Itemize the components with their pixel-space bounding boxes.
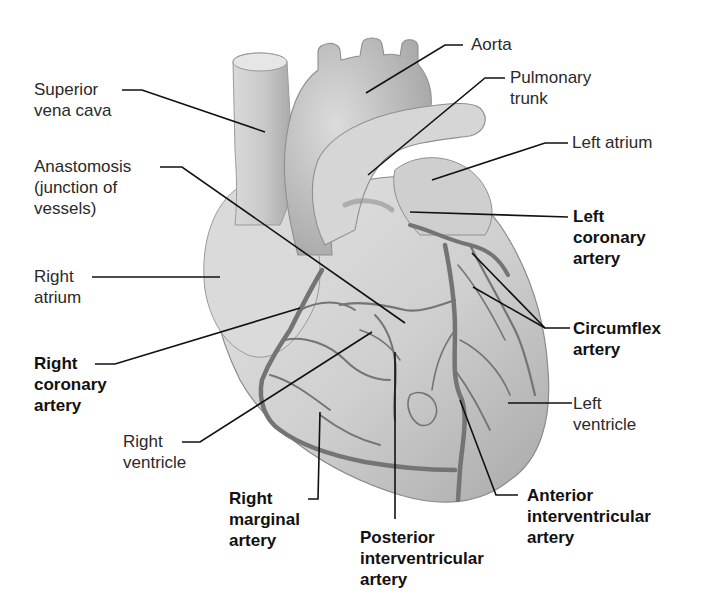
heart-diagram: Superior vena cava Anastomosis (junction… — [0, 0, 704, 611]
label-anastomosis: Anastomosis (junction of vessels) — [34, 156, 131, 219]
label-circumflex-artery: Circumflex artery — [573, 318, 661, 360]
label-right-atrium: Right atrium — [34, 266, 81, 308]
label-left-atrium: Left atrium — [572, 132, 652, 153]
superior-vena-cava-shape — [233, 53, 293, 225]
label-left-ventricle: Left ventricle — [573, 393, 636, 435]
label-anterior-interventricular-artery: Anterior interventricular artery — [527, 485, 651, 548]
label-posterior-interventricular-artery: Posterior interventricular artery — [360, 527, 484, 590]
label-pulmonary-trunk: Pulmonary trunk — [510, 67, 591, 109]
label-left-coronary-artery: Left coronary artery — [573, 206, 646, 269]
label-right-marginal-artery: Right marginal artery — [229, 488, 300, 551]
label-right-ventricle: Right ventricle — [123, 431, 186, 473]
vena-cava-opening — [233, 53, 287, 71]
label-superior-vena-cava: Superior vena cava — [34, 79, 112, 121]
label-right-coronary-artery: Right coronary artery — [34, 353, 107, 416]
label-aorta: Aorta — [471, 34, 512, 55]
